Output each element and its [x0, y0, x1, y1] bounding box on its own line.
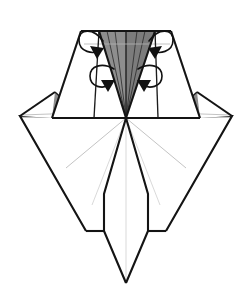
origami-diagram-root	[0, 0, 252, 301]
origami-figure	[0, 0, 252, 301]
